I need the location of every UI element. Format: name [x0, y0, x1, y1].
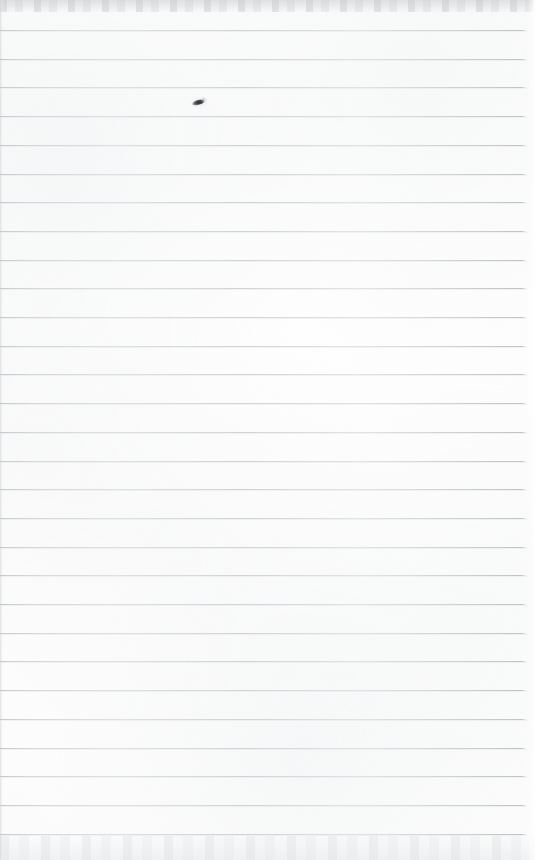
scanned-page: Blank ruled notebook page: [0, 0, 535, 860]
ink-speck-blot: [192, 99, 205, 106]
ink-speck: [192, 96, 208, 106]
ink-speck-halo: [189, 95, 211, 109]
ink-speck-tail: [200, 96, 209, 104]
page-marks: [0, 0, 535, 860]
